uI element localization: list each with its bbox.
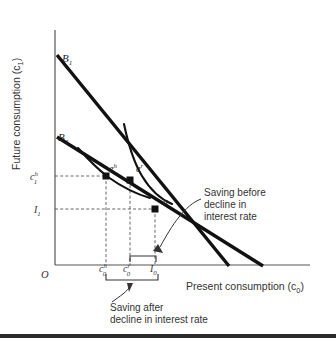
y-axis-label-close: ) <box>10 58 22 62</box>
bottom-divider-rule <box>0 334 336 338</box>
saving-after-bracket <box>106 274 158 280</box>
y-tick-c1h-sup: h <box>34 170 38 177</box>
y-axis-label-group: Future consumption (c1) <box>10 58 25 170</box>
y-tick-I1-sub: 1 <box>37 210 40 217</box>
annotation-saving-before-line-1: Saving before <box>204 187 266 198</box>
x-tick-c0r-sub: 0 <box>127 270 131 277</box>
svg-text:Future consumption (c1): Future consumption (c1) <box>10 58 25 170</box>
origin-label: O <box>41 269 49 280</box>
point-label-a: a <box>163 196 168 207</box>
x-tick-c0r-sup: r <box>127 262 130 269</box>
x-tick-I0-sub: 0 <box>153 269 157 276</box>
x-axis-label-close: ) <box>300 280 304 292</box>
annotation-saving-before-line-3: interest rate <box>204 211 257 222</box>
arrowhead-saving-after <box>127 283 133 292</box>
annotation-saving-after-line-1: Saving after <box>110 302 164 313</box>
y-tick-label-c1h: ch1 <box>30 170 38 185</box>
arrowhead-saving-before <box>153 244 163 253</box>
intertemporal-choice-chart: Future consumption (c1) Present consumpt… <box>0 0 336 357</box>
budget-lines-group <box>57 55 263 266</box>
x-tick-c0h-sup: h <box>103 262 107 269</box>
saving-before-bracket <box>130 256 156 262</box>
budget-line-B1 <box>57 55 229 266</box>
y-axis-label-text: Future consumption (c <box>10 66 22 170</box>
annotation-saving-after-line-2: decline in interest rate <box>110 314 208 325</box>
x-tick-labels-group: ch0 cr0 I0 <box>99 262 157 277</box>
y-tick-label-I1: I1 <box>33 204 41 217</box>
x-tick-label-c0r: cr0 <box>123 262 131 277</box>
x-axis-label-text: Present consumption (c <box>186 280 296 292</box>
point-label-e-h-sup: h <box>113 162 117 169</box>
y-tick-c1h-sub: 1 <box>34 178 37 185</box>
annotation-saving-before: Saving before decline in interest rate <box>204 187 266 222</box>
x-tick-c0h-sub: 0 <box>103 270 107 277</box>
budget-label-B1-sub: 1 <box>69 59 73 67</box>
x-axis-label-group: Present consumption (c0) <box>186 280 304 295</box>
point-label-e-r-sup: r <box>140 162 143 169</box>
y-tick-labels-group: ch1 I1 <box>30 170 41 217</box>
annotation-saving-after: Saving after decline in interest rate <box>110 302 208 325</box>
budget-label-B2: B2 <box>58 131 69 146</box>
svg-text:Present consumption (c0): Present consumption (c0) <box>186 280 304 295</box>
point-label-e-r: er <box>136 162 143 174</box>
annotation-saving-before-line-2: decline in <box>204 199 246 210</box>
point-marker-a <box>152 206 159 213</box>
figure-root: Future consumption (c1) Present consumpt… <box>0 0 336 357</box>
budget-label-B2-sub: 2 <box>65 138 69 146</box>
axes-group <box>55 30 310 265</box>
point-marker-e-r <box>127 177 134 184</box>
